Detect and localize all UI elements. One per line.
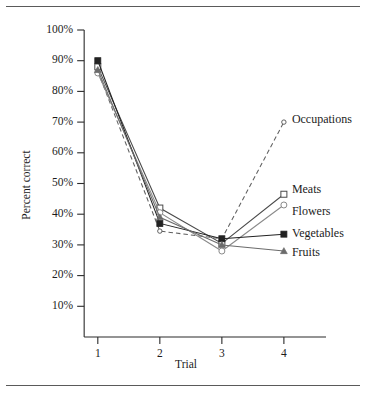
- legend-label-fruits: Fruits: [292, 245, 320, 259]
- series-line-vegetables: [98, 61, 284, 239]
- data-point-marker-circle-open: [219, 248, 225, 254]
- axes-group: [84, 30, 326, 337]
- y-tick-label: 70%: [52, 115, 74, 127]
- y-tick-label: 100%: [46, 23, 73, 35]
- series-line-occupations: [98, 71, 284, 238]
- x-tick-label: 2: [157, 347, 163, 359]
- legend-group: OccupationsMeatsFlowersVegetablesFruits: [292, 112, 352, 259]
- y-tick-label: 30%: [52, 238, 74, 250]
- x-axis-ticks: 1234: [95, 337, 287, 359]
- data-point-marker-square-filled: [157, 220, 163, 226]
- y-tick-label: 20%: [52, 268, 74, 280]
- y-axis-title: Percent correct: [20, 150, 32, 220]
- x-tick-label: 1: [95, 347, 101, 359]
- legend-label-vegetables: Vegetables: [292, 226, 344, 240]
- series-line-meats: [98, 67, 284, 244]
- y-tick-label: 90%: [52, 53, 74, 65]
- legend-label-meats: Meats: [292, 182, 322, 196]
- y-tick-label: 40%: [52, 207, 74, 219]
- legend-label-flowers: Flowers: [292, 204, 331, 218]
- series-line-fruits: [98, 70, 284, 251]
- figure-root: 10%20%30%40%50%60%70%80%90%100% 1234 Occ…: [0, 0, 366, 393]
- series-line-flowers: [98, 73, 284, 251]
- series-flowers: [95, 70, 287, 254]
- y-tick-label: 60%: [52, 145, 74, 157]
- y-axis-ticks: 10%20%30%40%50%60%70%80%90%100%: [46, 23, 84, 311]
- data-point-marker-square-filled: [281, 231, 287, 237]
- data-point-marker-circle-open-small: [158, 229, 162, 233]
- y-tick-label: 10%: [52, 299, 74, 311]
- series-meats: [95, 64, 287, 247]
- y-tick-label: 80%: [52, 84, 74, 96]
- series-group: [94, 58, 287, 254]
- data-point-marker-circle-open: [281, 202, 287, 208]
- data-point-marker-circle-open-small: [282, 120, 286, 124]
- y-tick-label: 50%: [52, 176, 74, 188]
- data-point-marker-square-open: [281, 191, 287, 197]
- x-axis-title: Trial: [175, 358, 197, 370]
- data-point-marker-square-filled: [95, 58, 101, 64]
- legend-label-occupations: Occupations: [292, 112, 352, 126]
- x-tick-label: 3: [219, 347, 225, 359]
- line-chart: 10%20%30%40%50%60%70%80%90%100% 1234 Occ…: [0, 0, 366, 393]
- x-tick-label: 4: [281, 347, 287, 359]
